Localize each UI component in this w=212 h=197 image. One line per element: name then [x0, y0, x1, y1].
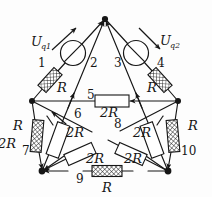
resistor-label-r8: 2R [123, 151, 142, 166]
resistor-r9 [92, 166, 122, 177]
branch-number-9: 9 [76, 172, 84, 186]
source-sub-q1: q1 [41, 42, 51, 51]
branch-number-5: 5 [87, 88, 95, 102]
resistor-r7 [30, 120, 44, 153]
branch-number-4: 4 [157, 56, 165, 70]
branch-number-3: 3 [114, 56, 122, 70]
resistor-label-r1: R [56, 80, 67, 95]
node-top [102, 16, 108, 22]
circuit-diagram: U q1 U q2 1 2 3 4 5 6 7 8 9 10 R R R R R… [0, 0, 212, 197]
branch-number-6: 6 [74, 107, 82, 121]
branch-number-10: 10 [181, 144, 196, 158]
branch-number-1: 1 [38, 56, 46, 70]
resistor-label-r10: R [187, 118, 198, 133]
circuit-svg: U q1 U q2 1 2 3 4 5 6 7 8 9 10 R R R R R… [0, 0, 212, 197]
resistor-label-r6: 2R [85, 151, 104, 166]
node-right [175, 98, 181, 104]
resistor-label-r4: R [146, 80, 157, 95]
node-left [29, 98, 35, 104]
resistor-label-r8-right: 2R [132, 125, 151, 140]
branch-number-7: 7 [22, 144, 30, 158]
resistor-r10 [166, 120, 180, 153]
resistor-label-r5: 2R [99, 105, 118, 120]
source-sub-q2: q2 [170, 41, 180, 50]
voltage-source-right [124, 41, 149, 66]
resistor-label-r9: R [101, 180, 112, 195]
resistor-label-edge-left: 2R [0, 136, 16, 151]
node-bottom-left [39, 168, 46, 175]
voltage-source-left [61, 41, 86, 66]
node-bottom-right [165, 168, 172, 175]
resistor-label-r7: R [12, 118, 23, 133]
resistor-label-r6-left: 2R [65, 125, 84, 140]
branch-number-2: 2 [90, 56, 98, 70]
